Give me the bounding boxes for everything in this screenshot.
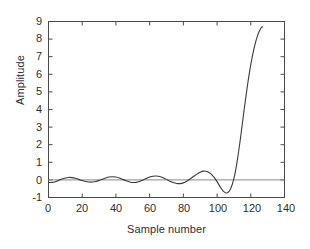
x-tick-label: 140 — [269, 203, 303, 214]
x-axis-label: Sample number — [48, 223, 285, 235]
x-tick-label: 120 — [235, 203, 269, 214]
y-tick-label: 8 — [16, 33, 42, 44]
y-tick-label: 9 — [16, 16, 42, 27]
x-tick-label: 0 — [31, 203, 65, 214]
y-tick-label: 4 — [16, 104, 42, 115]
y-tick-label: 5 — [16, 86, 42, 97]
x-tick-label: 20 — [65, 203, 99, 214]
y-tick-label: 6 — [16, 69, 42, 80]
x-tick-label: 40 — [99, 203, 133, 214]
y-tick-label: 7 — [16, 51, 42, 62]
chart-figure: Amplitude Sample number 9 8 7 6 5 4 3 2 … — [0, 0, 310, 249]
y-tick-label: -1 — [12, 192, 42, 203]
plot-frame — [49, 22, 285, 198]
y-tick-label: 2 — [16, 139, 42, 150]
y-tick-label: 0 — [16, 175, 42, 186]
x-tick-label: 100 — [201, 203, 235, 214]
y-tick-label: 1 — [16, 157, 42, 168]
x-tick-label: 60 — [133, 203, 167, 214]
y-axis-label: Amplitude — [14, 30, 26, 130]
x-tick-label: 80 — [167, 203, 201, 214]
y-tick-label: 3 — [16, 122, 42, 133]
